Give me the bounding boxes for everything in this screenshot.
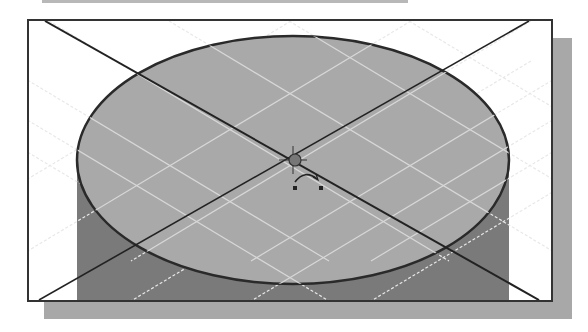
cylinder-model xyxy=(29,21,551,300)
graphics-viewport[interactable] xyxy=(27,19,553,302)
title-bar-strip xyxy=(42,0,408,3)
